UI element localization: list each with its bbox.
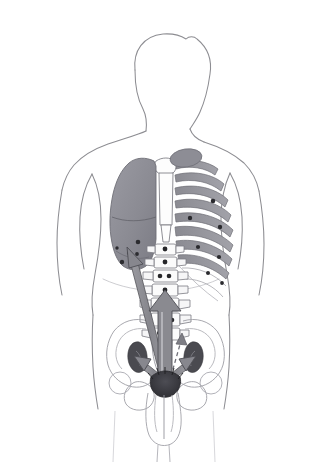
tp-t2r: [177, 259, 186, 266]
tp-t1: [147, 246, 155, 253]
lesion-rib-5: [217, 255, 221, 259]
lesion-lung-3: [135, 252, 139, 256]
lesion-rib-3: [218, 225, 222, 229]
lesion-rib-2: [188, 216, 192, 220]
lesion-rib-6: [206, 271, 210, 275]
sternum-body: [159, 173, 173, 225]
lesion-lung-4: [120, 260, 124, 264]
tp-l1r: [179, 300, 190, 309]
anatomy-illustration: [12, 11, 315, 463]
lesion-rib-1: [211, 199, 216, 204]
xiphoid: [161, 225, 171, 242]
lesion-rib-7: [220, 281, 224, 285]
lesion-spine-1: [163, 247, 168, 252]
lesion-spine-2: [163, 260, 168, 265]
lesion-spine-3: [158, 274, 163, 279]
figure-root: Prostate cancer metastatic spread diagra…: [0, 0, 328, 476]
lesion-spine-4: [167, 274, 172, 279]
lesion-lung-1: [136, 240, 141, 245]
tp-t3r: [178, 272, 188, 280]
tp-t3: [143, 272, 153, 280]
lesion-lung-6: [115, 246, 118, 249]
tp-t1r: [176, 246, 184, 253]
vertebra-t3: [153, 270, 178, 282]
tp-t4r: [178, 286, 188, 294]
lesion-rib-4: [196, 245, 200, 249]
tp-t2: [145, 259, 154, 266]
